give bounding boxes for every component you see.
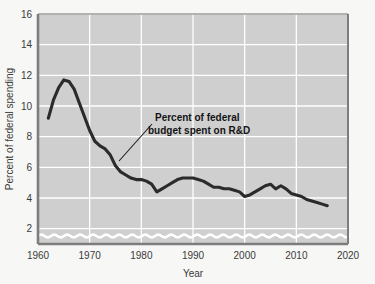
x-tick-label: 1970 — [79, 250, 102, 261]
y-tick-label: 12 — [21, 70, 33, 81]
chart-canvas: 246810121416 196019701980199020002010202… — [0, 0, 375, 284]
x-axis-title: Year — [183, 268, 204, 279]
y-tick-label: 2 — [26, 223, 32, 234]
x-tick-label: 2010 — [285, 250, 308, 261]
x-tick-label: 1960 — [27, 250, 50, 261]
y-tick-label: 6 — [26, 162, 32, 173]
annotation-label-line-1: Percent of federal — [155, 112, 240, 123]
y-tick-label: 16 — [21, 9, 33, 20]
chart-figure: 246810121416 196019701980199020002010202… — [0, 0, 375, 284]
y-tick-label: 4 — [26, 193, 32, 204]
y-tick-label: 8 — [26, 131, 32, 142]
y-tick-label: 14 — [21, 39, 33, 50]
x-tick-label: 1990 — [182, 250, 205, 261]
x-tick-label: 2020 — [337, 250, 360, 261]
x-tick-label: 2000 — [234, 250, 257, 261]
y-tick-label: 10 — [21, 101, 33, 112]
annotation-label-line-2: budget spent on R&D — [148, 125, 250, 136]
x-tick-label: 1980 — [130, 250, 153, 261]
y-axis-title: Percent of federal spending — [4, 68, 15, 190]
